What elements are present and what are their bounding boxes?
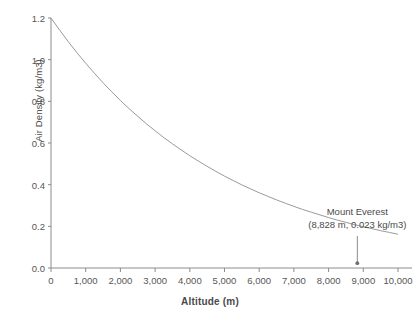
x-axis-title: Altitude (m) bbox=[0, 296, 420, 307]
air-density-chart: 0.00.20.40.60.81.01.2 01,0002,0003,0004,… bbox=[0, 0, 420, 319]
x-tick-label: 9,000 bbox=[351, 275, 375, 286]
mount-everest-annotation: Mount Everest (8,828 m, 0.023 kg/m3) bbox=[272, 206, 420, 231]
x-tick-label: 0 bbox=[48, 275, 53, 286]
chart-canvas bbox=[0, 0, 420, 319]
x-tick-marks bbox=[51, 268, 398, 272]
x-tick-label: 8,000 bbox=[317, 275, 341, 286]
x-tick-label: 1,000 bbox=[74, 275, 98, 286]
air-density-curve bbox=[51, 18, 398, 234]
x-tick-label: 4,000 bbox=[178, 275, 202, 286]
y-tick-label: 0.2 bbox=[9, 221, 45, 232]
annotation-title: Mount Everest bbox=[272, 206, 420, 219]
annotation-values: (8,828 m, 0.023 kg/m3) bbox=[272, 219, 420, 232]
y-tick-label: 0.4 bbox=[9, 179, 45, 190]
x-tick-label: 7,000 bbox=[282, 275, 306, 286]
y-tick-label: 0.0 bbox=[9, 263, 45, 274]
x-tick-label: 10,000 bbox=[383, 275, 412, 286]
x-tick-label: 3,000 bbox=[143, 275, 167, 286]
x-tick-label: 2,000 bbox=[109, 275, 133, 286]
x-tick-label: 5,000 bbox=[213, 275, 237, 286]
mount-everest-marker bbox=[355, 261, 359, 265]
x-tick-label: 6,000 bbox=[247, 275, 271, 286]
y-axis-title: Air Density (kg/m3) bbox=[33, 21, 44, 181]
